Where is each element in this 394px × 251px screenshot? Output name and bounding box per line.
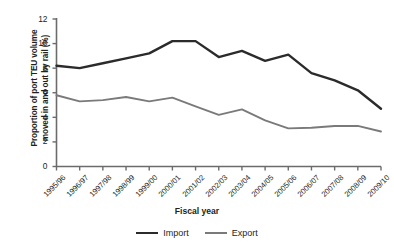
legend-swatch-export-icon	[205, 232, 227, 234]
series-line-export	[57, 95, 382, 131]
chart-figure: Proportion of port TEU volume moved in a…	[0, 0, 394, 251]
chart-legend: ImportExport	[0, 228, 394, 238]
y-tick-label: 10	[28, 38, 48, 48]
y-tick-label: 0	[28, 161, 48, 171]
legend-swatch-import-icon	[136, 232, 158, 234]
y-tick-label: 12	[28, 14, 48, 24]
data-series-group	[57, 41, 382, 131]
series-line-import	[57, 41, 382, 109]
y-tick-label: 6	[28, 87, 48, 97]
y-tick-label: 4	[28, 112, 48, 122]
legend-label: Import	[163, 228, 189, 238]
legend-item-export[interactable]: Export	[205, 228, 258, 238]
y-tick-label: 2	[28, 136, 48, 146]
axes	[57, 18, 382, 167]
legend-label: Export	[232, 228, 258, 238]
x-axis-title: Fiscal year	[0, 206, 394, 216]
y-tick-label: 8	[28, 63, 48, 73]
legend-item-import[interactable]: Import	[136, 228, 189, 238]
